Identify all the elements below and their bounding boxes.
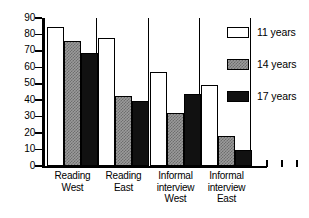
bar-chart: 0102030405060708090 ReadingWestReadingEa… (0, 0, 309, 218)
legend-item: 17 years (227, 86, 296, 106)
axis-edge-tick (281, 160, 283, 167)
bar-0 (47, 27, 64, 166)
y-tick-label: 40 (11, 95, 35, 105)
y-tick (35, 67, 42, 69)
legend-label-11-years: 11 years (257, 27, 296, 38)
y-tick-label: 50 (11, 78, 35, 88)
bar-0 (150, 72, 167, 166)
y-tick (35, 116, 42, 118)
legend-swatch-17-years (227, 91, 249, 102)
bar-group (98, 38, 149, 166)
y-tick (35, 165, 42, 167)
y-tick (35, 149, 42, 151)
legend-item: 14 years (227, 54, 296, 74)
legend-swatch-11-years (227, 27, 249, 38)
y-tick (35, 17, 42, 19)
y-tick-label: 70 (11, 45, 35, 55)
axis-edge-tick (266, 160, 268, 167)
x-label-line: Informal (194, 170, 260, 182)
bar-group (47, 27, 98, 166)
legend-label-14-years: 14 years (257, 59, 296, 70)
x-label-line: interview (194, 182, 260, 194)
y-tick-label: 0 (11, 161, 35, 171)
y-tick-label: 20 (11, 128, 35, 138)
legend-item: 11 years (227, 22, 296, 42)
bar-2 (81, 53, 98, 166)
bar-group (150, 72, 201, 166)
bar-1 (167, 113, 184, 166)
x-axis-label: InformalinterviewEast (194, 170, 260, 205)
legend-swatch-14-years (227, 59, 249, 70)
y-tick (35, 99, 42, 101)
y-tick-label: 60 (11, 62, 35, 72)
y-tick (35, 83, 42, 85)
bar-1 (218, 136, 235, 166)
bar-2 (184, 94, 201, 166)
bar-0 (98, 38, 115, 166)
x-label-line: East (194, 193, 260, 205)
bar-2 (235, 150, 252, 166)
legend-label-17-years: 17 years (257, 91, 296, 102)
bar-1 (64, 41, 81, 166)
y-tick-label: 10 (11, 144, 35, 154)
y-tick-label: 80 (11, 29, 35, 39)
y-tick-label: 30 (11, 111, 35, 121)
group-separator (44, 18, 45, 166)
bar-1 (115, 96, 132, 166)
bar-0 (201, 85, 218, 166)
y-tick-label: 90 (11, 13, 35, 23)
y-tick (35, 132, 42, 134)
bar-2 (132, 101, 149, 166)
axis-edge-tick (296, 160, 298, 167)
y-tick (35, 34, 42, 36)
y-tick (35, 50, 42, 52)
x-axis-baseline (42, 166, 267, 168)
legend: 11 years 14 years 17 years (227, 22, 296, 118)
